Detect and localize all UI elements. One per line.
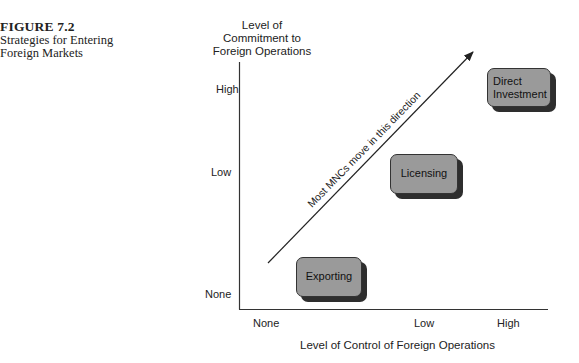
box-licensing-label: Licensing [391, 155, 457, 192]
x-tick-none: None [253, 317, 279, 329]
x-tick-high: High [497, 317, 520, 329]
diagram-lines: Most MNCs move in this direction [0, 0, 579, 363]
y-tick-high: High [216, 83, 239, 95]
box-direct-label-line2: Investment [493, 88, 550, 101]
box-direct-label-line1: Direct [493, 75, 550, 88]
box-licensing: Licensing [390, 154, 458, 194]
box-exporting: Exporting [296, 257, 362, 297]
box-direct-investment: Direct Investment [487, 68, 551, 107]
x-tick-low: Low [414, 317, 434, 329]
x-axis-label: Level of Control of Foreign Operations [300, 339, 495, 351]
box-exporting-label: Exporting [297, 258, 361, 295]
y-tick-low: Low [211, 166, 231, 178]
y-tick-none: None [205, 288, 231, 300]
